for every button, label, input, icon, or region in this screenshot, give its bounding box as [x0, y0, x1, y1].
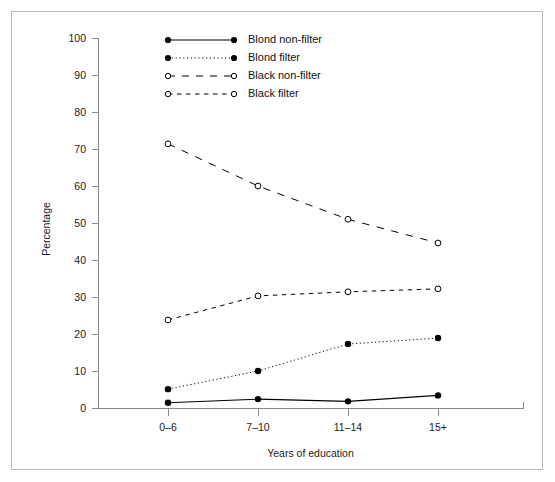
- data-point: [165, 386, 171, 392]
- series-black-non-filter: [165, 141, 441, 246]
- data-point: [345, 341, 351, 347]
- series-black-filter: [165, 286, 441, 323]
- data-point: [165, 400, 171, 406]
- data-point: [435, 392, 441, 398]
- plot-area: 0102030405060708090100 0–67–1011–1415+ P…: [0, 0, 555, 482]
- chart-legend: Blond non-filter Blond filter Black non-…: [162, 31, 402, 103]
- series-line: [168, 144, 438, 243]
- legend-label: Blond filter: [248, 51, 300, 63]
- data-point: [345, 216, 351, 222]
- data-point: [165, 141, 171, 147]
- data-point: [435, 286, 441, 292]
- series-blond-non-filter: [165, 392, 441, 406]
- legend-sample-blond-non-filter: [162, 31, 240, 49]
- data-point: [345, 398, 351, 404]
- data-point: [435, 240, 441, 246]
- chart-figure: 0102030405060708090100 0–67–1011–1415+ P…: [0, 0, 555, 482]
- series-line: [168, 338, 438, 389]
- legend-item-blond-filter: Blond filter: [162, 49, 402, 67]
- data-point: [255, 183, 261, 189]
- legend-item-black-non-filter: Black non-filter: [162, 67, 402, 85]
- legend-sample-blond-filter: [162, 49, 240, 67]
- legend-sample-black-filter: [162, 85, 240, 103]
- data-point: [255, 293, 261, 299]
- series-blond-filter: [165, 335, 441, 392]
- data-point: [345, 289, 351, 295]
- legend-item-blond-non-filter: Blond non-filter: [162, 31, 402, 49]
- legend-sample-black-non-filter: [162, 67, 240, 85]
- legend-label: Black filter: [248, 87, 299, 99]
- data-point: [435, 335, 441, 341]
- legend-item-black-filter: Black filter: [162, 85, 402, 103]
- data-point: [165, 317, 171, 323]
- series-line: [168, 289, 438, 320]
- series-line: [168, 395, 438, 402]
- data-point: [255, 396, 261, 402]
- data-point: [255, 368, 261, 374]
- legend-label: Black non-filter: [248, 69, 321, 81]
- legend-label: Blond non-filter: [248, 33, 322, 45]
